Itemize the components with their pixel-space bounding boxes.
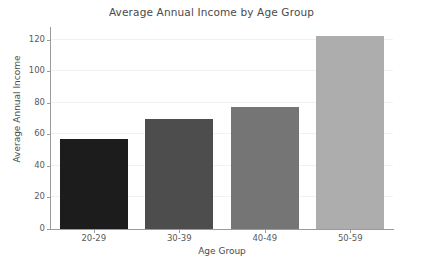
bar [145,119,213,229]
x-tick-label: 20-29 [64,234,124,243]
y-tick-label-wrap: 120 [0,35,45,45]
x-axis-spine [51,229,394,230]
y-tick-mark [47,166,50,167]
plot-area [51,27,393,229]
y-tick-label: 120 [5,35,45,44]
x-tick-label: 40-49 [235,234,295,243]
y-tick-mark [47,229,50,230]
y-tick-label-wrap: 20 [0,192,45,202]
y-tick-label: 100 [5,66,45,75]
y-tick-mark [47,40,50,41]
y-tick-label: 60 [5,129,45,138]
bar [231,107,299,229]
y-tick-mark [47,134,50,135]
y-tick-mark [47,71,50,72]
y-tick-label-wrap: 60 [0,129,45,139]
y-tick-label: 80 [5,98,45,107]
chart-title: Average Annual Income by Age Group [0,6,423,18]
y-tick-label-wrap: 80 [0,98,45,108]
y-tick-label-wrap: 100 [0,66,45,76]
bar [316,36,384,229]
y-tick-label-wrap: 40 [0,161,45,171]
y-tick-mark [47,103,50,104]
x-axis-label: Age Group [51,246,393,256]
y-axis-label: Average Annual Income [12,44,22,174]
y-tick-label-wrap: 0 [0,224,45,234]
y-tick-mark [47,197,50,198]
x-tick-label: 50-59 [320,234,380,243]
bar [60,139,128,229]
chart-figure: Average Annual Income by Age Group 02040… [0,0,423,268]
y-tick-label: 40 [5,161,45,170]
y-tick-label: 0 [5,224,45,233]
x-tick-label: 30-39 [149,234,209,243]
y-tick-label: 20 [5,192,45,201]
